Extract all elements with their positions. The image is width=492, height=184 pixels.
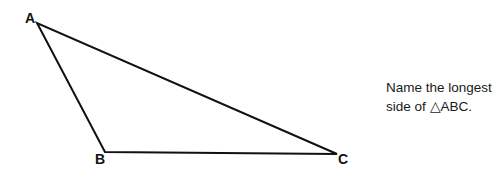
question-line-2-prefix: side of [386,99,430,114]
question-text: Name the longest side of △ABC. [386,78,492,116]
triangle-symbol-icon: △ [430,99,441,114]
question-line-2-suffix: ABC. [441,99,473,114]
vertex-label-b: B [95,151,105,167]
question-line-2: side of △ABC. [386,97,492,116]
vertex-label-a: A [25,10,35,26]
triangle-abc [37,23,337,154]
vertex-label-c: C [338,151,348,167]
question-line-1: Name the longest [386,78,492,97]
